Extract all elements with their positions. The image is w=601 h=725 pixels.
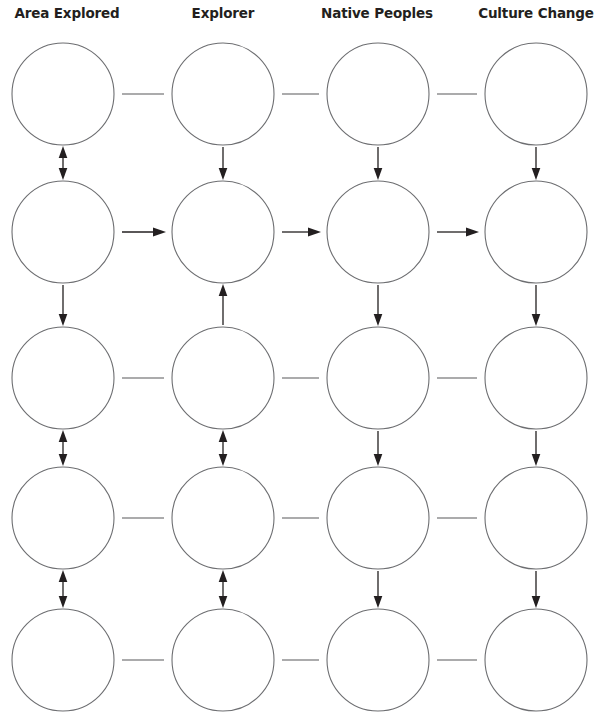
node-circle-r2c1[interactable]: [12, 181, 114, 283]
vconnector-r2c3-r3c3: [374, 285, 383, 326]
node-r4c1[interactable]: [12, 467, 114, 569]
node-circle-r5c3[interactable]: [327, 609, 429, 711]
node-r2c4[interactable]: [485, 181, 587, 283]
arrow-head-down-r3c4-r4c4: [532, 454, 541, 466]
node-r5c4[interactable]: [485, 609, 587, 711]
arrow-head-down-r4c4-r5c4: [532, 596, 541, 608]
node-circle-r4c4[interactable]: [485, 467, 587, 569]
arrow-head-down-r2c4-r3c4: [532, 314, 541, 326]
node-r3c4[interactable]: [485, 327, 587, 429]
node-circle-r3c2[interactable]: [172, 327, 274, 429]
node-r2c2[interactable]: [172, 181, 274, 283]
node-circle-r4c1[interactable]: [12, 467, 114, 569]
node-r1c1[interactable]: [12, 43, 114, 145]
vconnector-r4c3-r5c3: [374, 571, 383, 608]
vconnector-r2c4-r3c4: [532, 285, 541, 326]
arrow-head-up-r3c2-r4c2: [219, 430, 228, 442]
node-circle-r3c1[interactable]: [12, 327, 114, 429]
vconnector-r1c3-r2c3: [374, 147, 383, 180]
node-r4c4[interactable]: [485, 467, 587, 569]
vconnector-r3c3-r4c3: [374, 431, 383, 466]
hconnector-r2c3-r2c4: [437, 227, 479, 236]
vconnector-r1c2-r2c2: [219, 147, 228, 180]
node-r4c3[interactable]: [327, 467, 429, 569]
arrow-head-down-r4c2-r5c2: [219, 596, 228, 608]
arrow-head-down-r3c1-r4c1: [59, 454, 68, 466]
vconnector-r3c1-r4c1: [59, 430, 68, 466]
node-circle-r1c4[interactable]: [485, 43, 587, 145]
vconnector-r3c4-r4c4: [532, 431, 541, 466]
arrow-head-down-r1c4-r2c4: [532, 168, 541, 180]
node-circle-r2c3[interactable]: [327, 181, 429, 283]
node-r4c2[interactable]: [172, 467, 274, 569]
node-r1c4[interactable]: [485, 43, 587, 145]
node-circle-r5c2[interactable]: [172, 609, 274, 711]
node-r3c1[interactable]: [12, 327, 114, 429]
organizer-diagram: [0, 0, 601, 725]
node-circle-r4c2[interactable]: [172, 467, 274, 569]
hconnector-r2c2-r2c3: [282, 227, 321, 236]
arrow-head-down-r4c3-r5c3: [374, 596, 383, 608]
vconnector-r4c2-r5c2: [219, 570, 228, 608]
node-r1c3[interactable]: [327, 43, 429, 145]
node-layer: [12, 43, 587, 711]
vconnector-r2c1-r3c1: [59, 285, 68, 326]
arrow-head-up-r2c2-r3c2: [219, 284, 228, 296]
arrow-head-up-r4c2-r5c2: [219, 570, 228, 582]
vconnector-r4c1-r5c1: [59, 570, 68, 608]
node-r2c1[interactable]: [12, 181, 114, 283]
vconnector-r3c2-r4c2: [219, 430, 228, 466]
arrow-head-up-r4c1-r5c1: [59, 570, 68, 582]
node-r1c2[interactable]: [172, 43, 274, 145]
arrow-head-down-r3c2-r4c2: [219, 454, 228, 466]
vconnector-r1c1-r2c1: [59, 146, 68, 180]
arrow-head-down-r4c1-r5c1: [59, 596, 68, 608]
arrow-head-up-r3c1-r4c1: [59, 430, 68, 442]
vconnector-r2c2-r3c2: [219, 284, 228, 325]
node-circle-r1c1[interactable]: [12, 43, 114, 145]
node-circle-r2c4[interactable]: [485, 181, 587, 283]
hconnector-r2c1-r2c2: [122, 227, 166, 236]
node-circle-r3c3[interactable]: [327, 327, 429, 429]
vertical-connector-layer: [59, 146, 541, 608]
arrow-head-down-r3c3-r4c3: [374, 454, 383, 466]
node-r3c2[interactable]: [172, 327, 274, 429]
node-circle-r5c1[interactable]: [12, 609, 114, 711]
arrow-head-right-r2c2-r2c3: [308, 227, 321, 236]
node-circle-r1c2[interactable]: [172, 43, 274, 145]
vconnector-r4c4-r5c4: [532, 571, 541, 608]
node-r5c2[interactable]: [172, 609, 274, 711]
node-circle-r2c2[interactable]: [172, 181, 274, 283]
arrow-head-down-r1c1-r2c1: [59, 168, 68, 180]
node-circle-r4c3[interactable]: [327, 467, 429, 569]
arrow-head-down-r1c2-r2c2: [219, 168, 228, 180]
node-r2c3[interactable]: [327, 181, 429, 283]
arrow-head-right-r2c3-r2c4: [466, 227, 479, 236]
worksheet-page: Area Explored Explorer Native Peoples Cu…: [0, 0, 601, 725]
node-r5c3[interactable]: [327, 609, 429, 711]
node-circle-r1c3[interactable]: [327, 43, 429, 145]
arrow-head-down-r2c3-r3c3: [374, 314, 383, 326]
arrow-head-down-r2c1-r3c1: [59, 314, 68, 326]
node-circle-r5c4[interactable]: [485, 609, 587, 711]
arrow-head-right-r2c1-r2c2: [153, 227, 166, 236]
arrow-head-down-r1c3-r2c3: [374, 168, 383, 180]
arrow-head-up-r1c1-r2c1: [59, 146, 68, 158]
node-r3c3[interactable]: [327, 327, 429, 429]
node-circle-r3c4[interactable]: [485, 327, 587, 429]
vconnector-r1c4-r2c4: [532, 147, 541, 180]
node-r5c1[interactable]: [12, 609, 114, 711]
